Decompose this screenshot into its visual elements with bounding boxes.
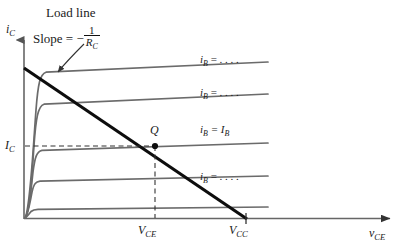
slope-numerator: 1 <box>84 25 100 35</box>
curve-4 <box>25 94 268 218</box>
x-axis-label: vCE <box>369 227 385 242</box>
slope-minus-sign: − <box>76 31 83 46</box>
curve-label-5: iB = . . . . <box>200 54 239 68</box>
tick-label-vce: VCE <box>138 224 156 239</box>
tick-label-ic: IC <box>5 139 15 154</box>
q-point-marker <box>152 143 158 149</box>
load-line-title: Load line <box>46 6 95 19</box>
slope-denominator: RC <box>84 35 100 53</box>
tick-label-vcc: VCC <box>229 224 248 239</box>
curve-label-4: iB = . . . . <box>200 87 239 101</box>
slope-annotation: Slope = −1RC <box>33 26 100 54</box>
slope-fraction: 1RC <box>84 25 100 53</box>
curve-label-3: iB = IB <box>200 124 229 138</box>
slope-text: Slope = <box>33 31 76 46</box>
transistor-load-line-figure: iC vCE Load line Slope = −1RC Q IC VCE V… <box>0 0 407 251</box>
q-point-label: Q <box>150 124 159 136</box>
y-axis-label: iC <box>6 23 15 38</box>
curve-label-1: iB = . . . . <box>200 171 239 185</box>
